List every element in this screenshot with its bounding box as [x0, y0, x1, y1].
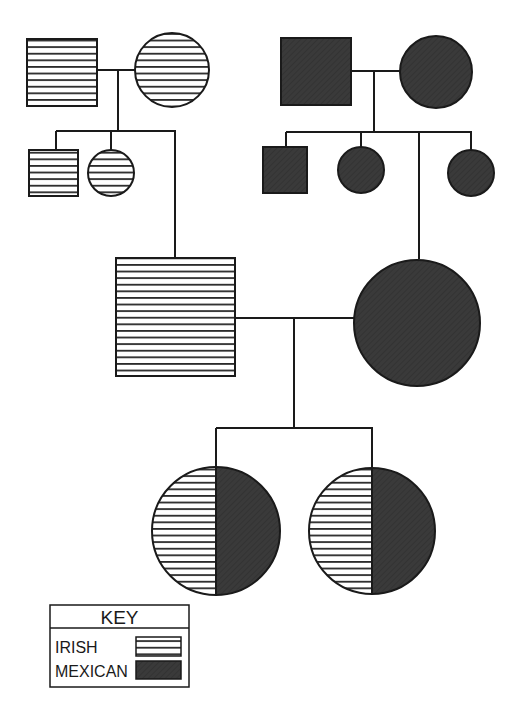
legend-label-mexican: MEXICAN: [55, 663, 128, 680]
mother-circle: [354, 260, 480, 386]
paternal-grandfather-square: [27, 39, 97, 106]
father-square: [116, 258, 235, 376]
maternal-aunt-circle-1: [338, 147, 384, 193]
maternal-aunt-circle-2: [448, 150, 494, 196]
legend-swatch-mexican: [136, 661, 181, 679]
maternal-uncle-square: [263, 147, 307, 193]
paternal-aunt-circle: [88, 150, 134, 196]
legend-title: KEY: [100, 607, 138, 628]
legend-label-irish: IRISH: [55, 639, 98, 656]
legend-key: KEY IRISH MEXICAN: [50, 605, 189, 687]
pedigree-diagram: KEY IRISH MEXICAN: [0, 0, 511, 719]
maternal-grandfather-square: [281, 38, 351, 105]
paternal-uncle-square: [29, 150, 78, 196]
daughter-1-circle: [152, 467, 280, 595]
paternal-grandmother-circle: [135, 33, 209, 107]
maternal-grandmother-circle: [400, 36, 472, 108]
legend-swatch-irish: [136, 637, 181, 656]
daughter-2-circle: [309, 468, 435, 594]
